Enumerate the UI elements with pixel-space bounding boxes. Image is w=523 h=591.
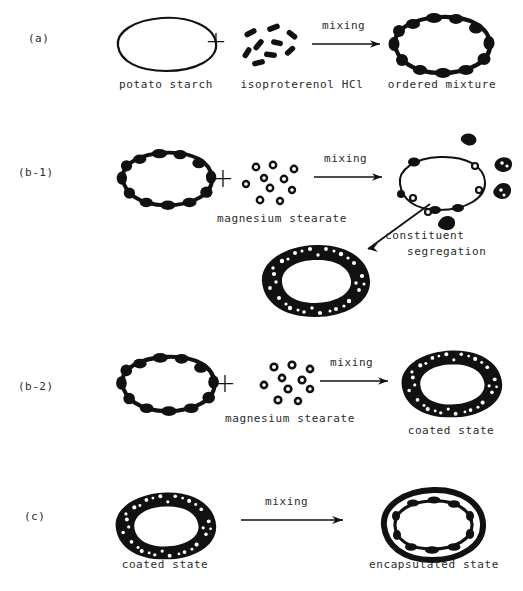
row-label-b1: (b-1) (18, 166, 54, 179)
caption-coated-state-b2: coated state (386, 424, 516, 437)
mixing-arrow-c (241, 514, 353, 528)
caption-isoproterenol-hcl: isoproterenol HCl (222, 78, 382, 91)
caption-encapsulated-state: encapsulated state (358, 558, 510, 571)
caption-magnesium-stearate-b1: magnesium stearate (202, 212, 362, 225)
ordered-mixture-shape-a (386, 12, 496, 78)
caption-ordered-mixture: ordered mixture (378, 78, 506, 91)
mixing-arrow-a (312, 38, 390, 52)
arrow-label-mixing-b2: mixing (330, 356, 373, 369)
caption-constituent-segregation: constituent segregation (385, 228, 486, 260)
magnesium-stearate-particles-b1 (240, 158, 308, 210)
row-label-a: (a) (28, 32, 49, 45)
row-label-b2: (b-2) (18, 380, 54, 393)
row-label-c: (c) (24, 510, 45, 523)
arrow-label-mixing-c: mixing (265, 495, 308, 508)
ordered-mixture-shape-b2 (112, 352, 222, 416)
caption-coated-state-c: coated state (104, 558, 226, 571)
segregation-line-2: segregation (385, 244, 486, 260)
granular-ring-b2 (392, 344, 510, 424)
plus-symbol-a: + (205, 28, 227, 54)
granular-ring-b1 (252, 238, 378, 324)
granular-ring-c (104, 486, 226, 566)
arrow-label-mixing-a: mixing (322, 19, 365, 32)
caption-potato-starch: potato starch (102, 78, 230, 91)
plus-symbol-b1: + (212, 165, 234, 191)
mixing-arrow-b1 (314, 171, 392, 185)
plus-symbol-b2: + (214, 370, 236, 396)
mixing-arrow-b2 (320, 375, 398, 389)
caption-magnesium-stearate-b2: magnesium stearate (206, 412, 374, 425)
arrow-label-mixing-b1: mixing (324, 152, 367, 165)
encapsulated-state-shape (378, 484, 488, 566)
isoproterenol-hcl-particles (236, 20, 306, 72)
process-diagram: (a) potato starch + isoproterenol HCl mi… (0, 0, 523, 591)
segregation-line-1: constituent (385, 229, 464, 242)
magnesium-stearate-particles-b2 (256, 358, 324, 410)
ordered-mixture-shape-b1 (112, 148, 220, 210)
